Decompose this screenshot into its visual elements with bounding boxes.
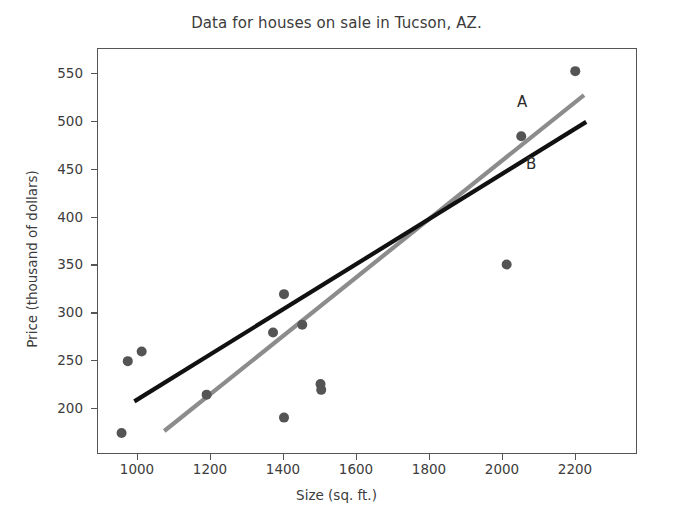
scatter-point [117,428,127,438]
y-tick-mark [91,312,97,313]
x-tick-label: 1800 [412,461,446,477]
x-tick-label: 1600 [339,461,373,477]
plot-canvas [98,49,638,455]
y-tick-label: 450 [57,161,83,177]
y-tick-mark [91,408,97,409]
scatter-point [502,259,512,269]
scatter-point [202,390,212,400]
x-tick-mark [137,454,138,460]
y-tick-mark [91,217,97,218]
y-tick-label: 550 [57,65,83,81]
chart-figure: Data for houses on sale in Tucson, AZ. 2… [0,0,673,528]
y-tick-label: 400 [57,209,83,225]
x-tick-mark [429,454,430,460]
trend-line-b [134,122,586,401]
y-tick-label: 300 [57,304,83,320]
scatter-point [516,131,526,141]
y-tick-label: 250 [57,352,83,368]
chart-title: Data for houses on sale in Tucson, AZ. [0,14,673,32]
scatter-point [268,327,278,337]
x-tick-mark [575,454,576,460]
series-annotation-a: A [517,93,527,111]
scatter-point [316,385,326,395]
x-tick-label: 1200 [193,461,227,477]
y-tick-label: 200 [57,400,83,416]
x-tick-label: 2000 [485,461,519,477]
series-annotation-b: B [526,155,536,173]
x-axis-label: Size (sq. ft.) [0,487,673,503]
y-tick-label: 500 [57,113,83,129]
y-tick-mark [91,169,97,170]
x-tick-mark [356,454,357,460]
x-tick-mark [210,454,211,460]
x-tick-label: 1000 [120,461,154,477]
y-tick-mark [91,73,97,74]
scatter-point [279,289,289,299]
x-tick-mark [502,454,503,460]
y-axis-label: Price (thousand of dollars) [24,139,40,379]
x-tick-label: 2200 [558,461,592,477]
plot-area [97,48,637,454]
y-tick-mark [91,121,97,122]
scatter-point [123,356,133,366]
y-tick-mark [91,264,97,265]
x-tick-mark [283,454,284,460]
x-tick-label: 1400 [266,461,300,477]
trend-line-a [164,95,584,431]
scatter-point [297,320,307,330]
scatter-point [570,66,580,76]
scatter-point [279,413,289,423]
scatter-point [137,347,147,357]
y-tick-mark [91,360,97,361]
y-tick-label: 350 [57,256,83,272]
x-axis-tick-labels: 1000120014001600180020002200 [0,461,673,483]
